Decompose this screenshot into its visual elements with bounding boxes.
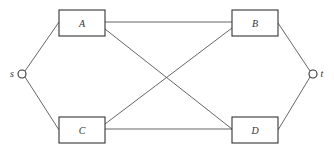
box-C-label: C [79, 125, 86, 136]
sink-label: t [321, 68, 324, 79]
edge-A-D [105, 29, 232, 129]
box-A: A [59, 10, 105, 36]
box-C: C [59, 117, 105, 143]
network-diagram: A B C D s t [0, 0, 334, 155]
box-D: D [232, 117, 278, 143]
box-B-label: B [252, 18, 258, 29]
edge-C-B [105, 28, 232, 124]
box-B: B [232, 10, 278, 36]
box-D-label: D [250, 125, 259, 136]
sink-node: t [309, 68, 324, 79]
edge-s-A [25, 22, 59, 71]
box-A-label: A [78, 18, 86, 29]
edge-s-C [25, 77, 59, 130]
source-label: s [10, 68, 14, 79]
edge-B-t [278, 23, 310, 71]
source-node: s [10, 68, 26, 79]
edge-D-t [278, 77, 310, 130]
edges [25, 22, 310, 130]
